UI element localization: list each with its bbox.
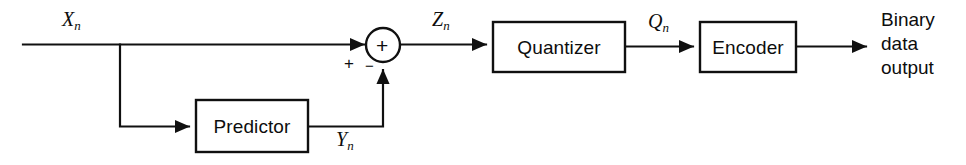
summer-positive-input-sign: + [344, 55, 354, 72]
encoder-label: Encoder [703, 37, 793, 59]
dpcm-encoder-diagram: Predictor Quantizer Encoder Xn Zn Yn Qn … [0, 0, 966, 165]
signal-label-qn: Qn [648, 10, 669, 33]
binary-data-output-label: Binary data output [881, 8, 935, 80]
signal-label-xn: Xn [62, 8, 81, 31]
wire-predictor-to-summer [308, 70, 383, 127]
wire-input-branch-to-predictor [120, 45, 189, 127]
predictor-label: Predictor [201, 116, 303, 138]
output-line-2: data [881, 32, 935, 56]
signal-label-yn: Yn [336, 128, 354, 151]
summer-negative-input-sign: − [365, 58, 374, 73]
output-line-3: output [881, 56, 935, 80]
summer-inner-plus-sign: + [376, 35, 388, 56]
diagram-canvas [0, 0, 966, 165]
output-line-1: Binary [881, 8, 935, 32]
signal-label-zn: Zn [432, 8, 450, 31]
quantizer-label: Quantizer [498, 37, 620, 59]
